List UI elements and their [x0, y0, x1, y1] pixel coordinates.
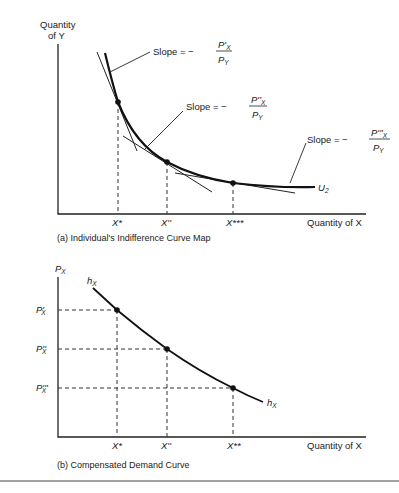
indifference-curve-u2 [105, 53, 315, 187]
x-tick-a-1: X* [111, 217, 122, 228]
x-tick-b-2: X'' [160, 440, 172, 451]
panel-b: PX hX hX P'X P''X P'''X X* X'' X** Quant… [36, 263, 366, 470]
leader-line-3 [290, 143, 306, 183]
demand-point-1 [114, 307, 120, 313]
svg-text:PY: PY [252, 109, 263, 121]
x-axis-label-b: Quantity of X [307, 440, 363, 451]
panel-b-axes [58, 277, 366, 437]
svg-text:P'X: P'X [218, 39, 231, 51]
svg-text:Slope = −: Slope = − [186, 101, 227, 112]
compensated-demand-curve [93, 288, 263, 402]
svg-text:PY: PY [218, 54, 229, 66]
x-axis-label-a: Quantity of X [307, 217, 363, 228]
y-axis-label-line1: Quantity [40, 19, 76, 30]
diagram-canvas: Quantity of Y Slope = − P'X PY S [0, 0, 399, 493]
svg-text:Slope = −: Slope = − [307, 134, 348, 145]
y-axis-label-b: PX [55, 263, 66, 275]
tangency-point-3 [230, 180, 236, 186]
demand-point-3 [230, 385, 236, 391]
x-tick-a-3: X*** [225, 217, 244, 228]
curve-label-u2: U2 [318, 182, 329, 194]
leader-line-2 [144, 111, 183, 150]
y-tick-b-3: P'''X [36, 382, 49, 394]
svg-text:P'''X: P'''X [371, 127, 388, 139]
svg-text:P''X: P''X [251, 94, 266, 106]
tangency-point-2 [164, 159, 170, 165]
caption-b: (b) Compensated Demand Curve [57, 460, 190, 470]
slope-label-2: Slope = − P''X PY [186, 94, 267, 121]
x-tick-b-3: X** [226, 440, 241, 451]
x-tick-b-1: X* [111, 440, 122, 451]
y-tick-b-2: P''X [36, 343, 47, 355]
slope-label-3: Slope = − P'''X PY [307, 127, 390, 154]
svg-text:PY: PY [373, 142, 384, 154]
caption-a: (a) Individual's Indifference Curve Map [57, 233, 211, 243]
leader-line-1 [110, 52, 150, 72]
x-tick-a-2: X'' [160, 217, 172, 228]
slope-label-1: Slope = − P'X PY [153, 39, 232, 66]
curve-label-hx-bottom: hX [267, 397, 277, 409]
curve-label-hx-top: hX [87, 275, 97, 287]
panel-a: Quantity of Y Slope = − P'X PY S [40, 19, 390, 243]
tangency-point-1 [115, 99, 121, 105]
y-tick-b-1: P'X [36, 304, 46, 316]
y-axis-label-line2: of Y [48, 30, 65, 41]
demand-point-2 [164, 346, 170, 352]
svg-text:Slope = −: Slope = − [153, 46, 194, 57]
